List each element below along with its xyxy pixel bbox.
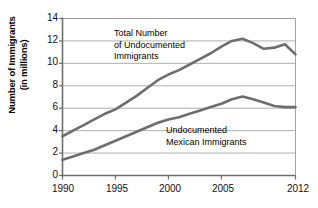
- annotation-line: Total Number: [114, 28, 185, 40]
- x-tick-label: 1995: [97, 184, 137, 194]
- annotation-line: of Undocumented: [114, 40, 185, 52]
- x-tick-label: 1990: [43, 184, 83, 194]
- x-tick-label: 2005: [203, 184, 243, 194]
- annotation-line: Mexican Immigrants: [166, 137, 247, 149]
- x-tick-label: 2012: [278, 184, 318, 194]
- chart-container: Number of Immigrants (in millions) 14 12…: [0, 0, 318, 208]
- series-annotation-mexican: Undocumented Mexican Immigrants: [166, 125, 247, 148]
- series-annotation-total: Total Number of Undocumented Immigrants: [114, 28, 185, 63]
- annotation-line: Undocumented: [166, 125, 247, 137]
- annotation-line: Immigrants: [114, 51, 185, 63]
- x-tick-label: 2000: [150, 184, 190, 194]
